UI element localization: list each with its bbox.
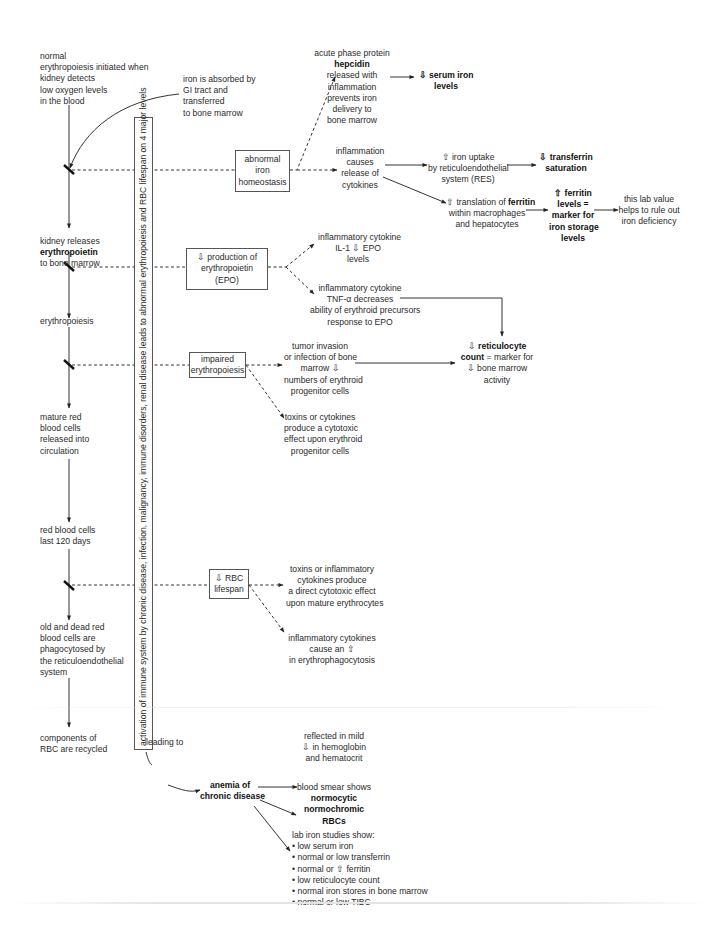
term-reticulocyte: reticulocyte <box>478 341 526 351</box>
text-line: saturation <box>536 163 596 174</box>
text-line: circulation <box>40 446 89 457</box>
ferritin-translation-text: ⇧ translation of ferritin within macroph… <box>446 197 528 231</box>
text-line: TNF-α decreases <box>310 294 410 305</box>
step-erythropoiesis: erythropoiesis <box>40 316 94 327</box>
text-line: bone marrow <box>300 115 404 126</box>
text-line: iron deficiency <box>618 216 680 227</box>
text-line: components of <box>40 733 107 744</box>
leading-to-curve-2 <box>168 785 200 791</box>
text-line: levels <box>318 254 398 265</box>
text-line: effect upon erythroid <box>284 434 356 445</box>
text-line: anemia of <box>200 780 260 791</box>
text-line: in erythrophagocytosis <box>286 655 378 666</box>
text-line: acute phase protein <box>300 48 404 59</box>
text-line: release of <box>330 168 390 179</box>
text-line: (EPO) <box>197 275 257 286</box>
text-line: low oxygen levels <box>40 85 148 96</box>
arrow-anemia-smear <box>260 800 296 815</box>
text-line: iron is absorbed by <box>183 74 256 85</box>
text-line: ⇩ serum iron <box>410 70 482 81</box>
text-line: transferred <box>183 96 256 107</box>
text-line: marrow ⇩ <box>284 363 356 374</box>
text-line: helps to rule out <box>618 205 680 216</box>
text-line: ⇩ production of <box>197 252 257 263</box>
serum-iron-result: ⇩ serum iron levels <box>410 70 482 92</box>
text-line: levels <box>410 81 482 92</box>
text-line: abnormal <box>238 154 286 165</box>
text-line: upon mature erythrocytes <box>286 598 378 609</box>
text-line: released into <box>40 434 89 445</box>
text-line: this lab value <box>618 194 680 205</box>
text-line: activity <box>457 375 537 386</box>
text-line: erythropoietin <box>197 263 257 274</box>
text-line: inflammation <box>330 146 390 157</box>
dash-epo-up <box>286 244 314 267</box>
text-line: = marker for <box>484 352 533 362</box>
text-line: blood cells are <box>40 633 124 644</box>
text-line: ⇩ bone marrow <box>457 363 537 374</box>
text-line: the reticuloendothelial <box>40 656 124 667</box>
text-line: IL-1 ⇩ EPO <box>318 243 398 254</box>
scan-artifact-line <box>10 707 690 708</box>
iron-uptake-res-text: ⇧ iron uptake by reticuloendothelial sys… <box>428 152 508 186</box>
text-line: erythropoiesis <box>191 365 245 376</box>
text-line: red blood cells <box>40 525 95 536</box>
leading-to-label: leading to <box>146 737 183 748</box>
term-erythropoietin: erythropoietin <box>40 247 98 257</box>
text-line: reflected in mild <box>298 731 370 742</box>
term-rbcs: RBCs <box>322 816 345 826</box>
lab-item: • normal or low transferrin <box>292 852 428 863</box>
term-count: count <box>461 352 484 362</box>
text-line: phagocytosed by <box>40 644 124 655</box>
text-line: inflammatory cytokine <box>310 283 410 294</box>
arrow-anemia-lab <box>254 806 290 851</box>
step-kidney-releases-epo: kidney releases erythropoietin to bone m… <box>40 236 100 270</box>
text-line: ⇧ translation of <box>446 197 506 207</box>
text-line: erythropoiesis initiated when <box>40 62 148 73</box>
text-line: cytokines <box>330 180 390 191</box>
text-line: blood cells <box>40 423 89 434</box>
text-line: ⇩ RBC <box>214 573 244 584</box>
immune-activation-banner-text: activation of immune system by chronic d… <box>138 120 149 746</box>
text-line: ability of erythroid precursors <box>310 305 410 316</box>
blood-smear-text: blood smear shows normocytic normochromi… <box>294 782 374 827</box>
text-line: progenitor cells <box>284 386 356 397</box>
text-line: ⇩ transferrin <box>536 152 596 163</box>
text-line: old and dead red <box>40 622 124 633</box>
arrow-tnf-retic <box>400 298 502 336</box>
inflammation-cytokines-text: inflammation causes release of cytokines <box>330 146 390 191</box>
ferritin-levels-result: ⇧ ferritin levels = marker for iron stor… <box>549 188 597 244</box>
erythrophagocytosis-text: inflammatory cytokines cause an ⇧ in ery… <box>286 633 378 667</box>
transferrin-saturation-result: ⇩ transferrin saturation <box>536 152 596 174</box>
dash-life-down <box>249 585 284 632</box>
text-line: levels <box>549 233 597 244</box>
text-line: toxins or cytokines <box>284 412 356 423</box>
text-line: system (RES) <box>428 174 508 185</box>
text-line: toxins or inflammatory <box>286 564 378 575</box>
text-line: impaired <box>191 354 245 365</box>
reticulocyte-count-result: ⇩ reticulocyte count = marker for ⇩ bone… <box>457 341 537 386</box>
text-line: and hematocrit <box>298 753 370 764</box>
anemia-of-chronic-disease: anemia of chronic disease <box>200 780 260 802</box>
text-line: in the blood <box>40 96 148 107</box>
text-line: response to EPO <box>310 317 410 328</box>
text-line: inflammatory cytokine <box>318 232 398 243</box>
text-line: chronic disease <box>200 791 260 802</box>
text-line: a direct cytotoxic effect <box>286 586 378 597</box>
text-line: normal <box>40 51 148 62</box>
text-line: RBC are recycled <box>40 744 107 755</box>
text-line: ⇩ in hemoglobin <box>298 742 370 753</box>
iron-absorption-text: iron is absorbed by GI tract and transfe… <box>183 74 256 119</box>
hepcidin-text: acute phase protein hepcidin released wi… <box>300 48 404 126</box>
lab-item: • low reticulocyte count <box>292 875 428 886</box>
text-line: kidney releases <box>40 236 100 247</box>
lab-item: • low serum iron <box>292 841 428 852</box>
text-line: by reticuloendothelial <box>428 163 508 174</box>
text-line: homeostasis <box>238 177 286 188</box>
term-hepcidin: hepcidin <box>334 59 369 69</box>
box-rbc-lifespan: ⇩ RBC lifespan <box>209 569 249 599</box>
text-line: progenitor cells <box>284 446 356 457</box>
lab-value-note: this lab value helps to rule out iron de… <box>618 194 680 228</box>
text-line: or infection of bone <box>284 352 356 363</box>
step-phagocytosed: old and dead red blood cells are phagocy… <box>40 622 124 678</box>
